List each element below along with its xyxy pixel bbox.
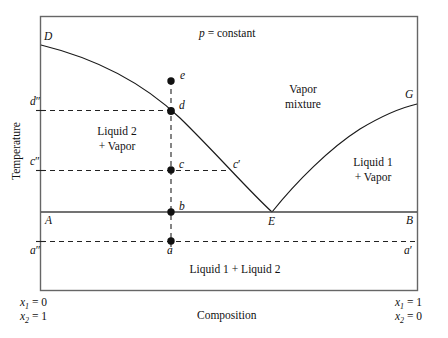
region-label-liquid2-vapor: Liquid 2 + Vapor — [72, 126, 162, 152]
composition-left-x2: x2 = 1 — [20, 311, 47, 325]
region-label-vapor-mixture: Vapor mixture — [258, 84, 348, 110]
state-point-label-b: b — [179, 201, 185, 213]
state-point-label-c: c — [179, 159, 184, 171]
region-label-liquid1-vapor: Liquid 1 + Vapor — [328, 157, 418, 183]
plot-frame — [41, 17, 418, 291]
region-vapor-mixture-line1: Vapor — [258, 84, 348, 96]
tie-point-prime-ap: ′ — [410, 244, 413, 256]
tie-point-prime-cp: ′ — [238, 158, 241, 170]
state-point-e — [167, 77, 174, 84]
composition-right-x1-val: 1 — [416, 296, 422, 308]
region-label-liquid1-liquid2: Liquid 1 + Liquid 2 — [180, 264, 290, 276]
state-point-d — [167, 107, 175, 115]
y-axis-title: Temperature — [10, 111, 22, 191]
curve-point-label-D: D — [44, 31, 52, 43]
composition-right-x1-eq: = — [404, 296, 416, 308]
tie-point-label-c-prime: c′ — [233, 159, 241, 171]
tie-point-label-c-double-prime: c″ — [30, 156, 40, 168]
tie-point-prime-c2: ″ — [35, 155, 40, 167]
region-liquid2-vapor-line2: + Vapor — [72, 141, 162, 153]
tie-point-label-a-double-prime: a″ — [30, 245, 41, 257]
state-point-b — [167, 208, 174, 215]
state-point-label-e: e — [180, 70, 185, 82]
tie-point-prime-d2: ″ — [36, 95, 41, 107]
composition-right-x2-val: 0 — [416, 310, 422, 322]
tie-point-label-d-double-prime: d″ — [30, 96, 41, 108]
curve-point-label-A: A — [45, 215, 52, 227]
tie-point-label-a-prime: a′ — [404, 245, 412, 257]
region-liquid2-vapor-line1: Liquid 2 — [72, 126, 162, 138]
tie-point-prime-a2: ″ — [36, 244, 41, 256]
region-vapor-mixture-line2: mixture — [258, 99, 348, 111]
composition-left-x1-eq: = — [29, 296, 41, 308]
curve-point-label-G: G — [405, 89, 413, 101]
composition-left-x1-val: 0 — [41, 296, 47, 308]
pressure-condition-note: p = constant — [199, 28, 255, 40]
composition-right-x2-eq: = — [404, 310, 416, 322]
pressure-equals: = — [205, 27, 217, 39]
pressure-value: constant — [217, 27, 255, 39]
curve-point-label-E: E — [268, 216, 275, 228]
region-liquid1-vapor-line1: Liquid 1 — [328, 157, 418, 169]
state-point-label-a: a — [167, 245, 173, 257]
composition-left-x2-eq: = — [29, 310, 41, 322]
phase-diagram-figure: Temperature Composition p = constant D G… — [0, 0, 448, 338]
x-axis-title: Composition — [197, 310, 256, 322]
curve-point-label-B: B — [406, 215, 413, 227]
composition-left-x2-val: 1 — [41, 310, 47, 322]
state-point-label-d: d — [179, 100, 185, 112]
state-point-c — [167, 166, 174, 173]
composition-right-x2: x2 = 0 — [395, 311, 422, 325]
region-liquid1-vapor-line2: + Vapor — [328, 172, 418, 184]
